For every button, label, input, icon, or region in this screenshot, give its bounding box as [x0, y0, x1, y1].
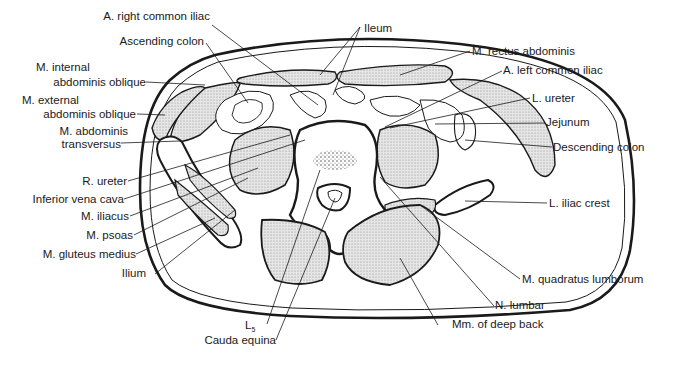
label-l-ureter: L. ureter: [532, 92, 575, 105]
label-m-transversus-1: M. abdominis: [10, 125, 128, 138]
label-ilium: Ilium: [0, 267, 146, 280]
label-l-iliac-crest: L. iliac crest: [549, 197, 610, 210]
label-a-left-common-iliac: A. left common iliac: [503, 64, 603, 77]
mm-deep-back-right: [261, 220, 329, 284]
label-cauda-equina: Cauda equina: [150, 334, 276, 347]
label-m-transversus-2: transversus: [10, 138, 121, 151]
label-descending-colon: Descending colon: [553, 141, 644, 154]
vertebral-body-marrow: [313, 150, 357, 170]
m-rectus-abdominis-right: [237, 70, 337, 86]
label-m-internal-oblique-1: M. internal: [36, 61, 90, 74]
label-n-lumbar: N. lumbar: [495, 299, 545, 312]
label-m-psoas: M. psoas: [0, 229, 133, 242]
label-m-iliacus: M. iliacus: [0, 210, 129, 223]
label-m-external-oblique-2: abdominis oblique: [10, 108, 136, 121]
label-m-gluteus-medius: M. gluteus medius: [0, 248, 136, 261]
label-m-external-oblique-1: M. external: [22, 94, 79, 107]
m-rectus-abdominis-left: [337, 65, 453, 86]
descending-colon-shape: [454, 114, 475, 150]
m-psoas-left: [377, 125, 438, 188]
label-jejunum: Jejunum: [546, 116, 589, 129]
ileum-loops: [290, 86, 420, 118]
label-m-quadratus-lumborum: M. quadratus lumborum: [522, 273, 643, 286]
label-r-ureter: R. ureter: [10, 175, 127, 188]
label-ileum: Ileum: [364, 22, 392, 35]
label-inferior-vena-cava: Inferior vena cava: [0, 193, 124, 206]
label-m-internal-oblique-2: abdominis oblique: [20, 76, 146, 89]
label-mm-deep-back: Mm. of deep back: [452, 318, 543, 331]
label-a-right-common-iliac: A. right common iliac: [40, 10, 210, 23]
label-ascending-colon: Ascending colon: [40, 35, 204, 48]
l-iliac-crest-shape: [434, 180, 493, 215]
label-m-rectus-abdominis: M. rectus abdominis: [472, 45, 575, 58]
